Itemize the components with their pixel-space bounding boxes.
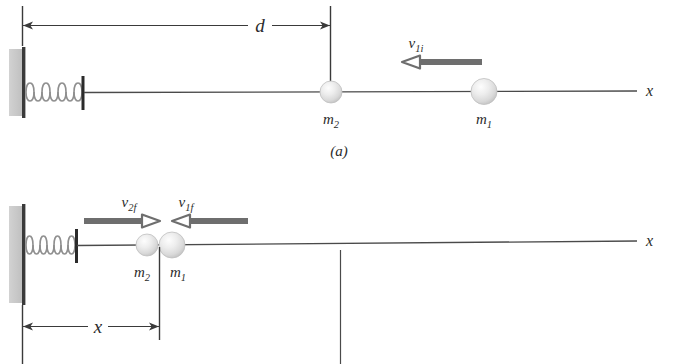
panel-b: x v2f v1f m2 m1 bbox=[9, 194, 653, 364]
panel-a: d x v1i m2 m1 bbox=[9, 6, 653, 160]
velocity-arrow-v1i bbox=[402, 56, 482, 69]
mass-label-m1-b: m1 bbox=[170, 264, 186, 283]
velocity-arrow-v1f bbox=[172, 215, 248, 228]
wall-a bbox=[9, 49, 24, 116]
mass-label-m1-a: m1 bbox=[476, 111, 492, 130]
panel-caption-a: (a) bbox=[330, 143, 348, 160]
wall-b bbox=[9, 206, 24, 303]
dimension-label-x: x bbox=[93, 316, 103, 337]
mass-ball-m2-b bbox=[136, 234, 158, 256]
mass-label-m2-a: m2 bbox=[323, 111, 340, 130]
spring-a bbox=[26, 83, 82, 101]
wall-edge-a bbox=[22, 47, 25, 118]
wall-edge-b bbox=[22, 204, 25, 305]
velocity-label-v2f: v2f bbox=[122, 194, 139, 213]
velocity-label-v1i: v1i bbox=[409, 35, 424, 54]
axis-line-a bbox=[84, 91, 637, 93]
velocity-arrow-v2f bbox=[84, 215, 160, 228]
dimension-label-d: d bbox=[255, 15, 265, 36]
mass-ball-m1-b bbox=[159, 232, 185, 258]
axis-label-b: x bbox=[645, 232, 653, 249]
figure-canvas: d x v1i m2 m1 bbox=[0, 0, 679, 364]
mass-ball-m1-a bbox=[471, 79, 497, 105]
spring-b bbox=[26, 236, 75, 254]
axis-label-a: x bbox=[645, 82, 653, 99]
physics-figure: d x v1i m2 m1 bbox=[0, 0, 679, 364]
mass-label-m2-b: m2 bbox=[134, 264, 151, 283]
mass-ball-m2-a bbox=[320, 81, 342, 103]
velocity-label-v1f: v1f bbox=[179, 194, 196, 213]
